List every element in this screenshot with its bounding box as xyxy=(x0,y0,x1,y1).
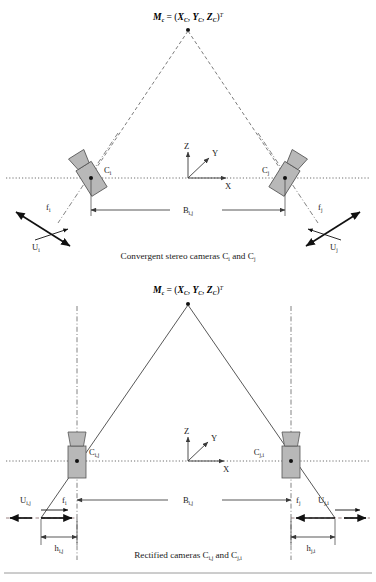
bottom-focal-left-label: fi xyxy=(62,495,67,506)
bottom-camera-right-center xyxy=(289,459,293,463)
bottom-axis-z-label: Z xyxy=(184,426,189,436)
bottom-point-label: Mc = (XC, YC, ZC)T xyxy=(152,284,224,296)
top-vector-left-thin-arrow xyxy=(35,229,68,240)
bottom-offset-left-label: hi,j xyxy=(55,543,64,554)
top-focal-right-label: fj xyxy=(318,202,323,213)
bottom-diagram-caption: Rectified cameras Ci,j and Cj,i xyxy=(134,550,242,561)
bottom-diagram-group: Mc = (XC, YC, ZC)T Ci,j Cj,i xyxy=(6,284,370,561)
bottom-camera-right-lens xyxy=(282,432,300,446)
top-axis-triad: Z Y X xyxy=(184,141,232,191)
top-axis-y-line xyxy=(188,158,209,178)
top-ray-right xyxy=(188,31,285,176)
top-camera-right xyxy=(269,149,308,196)
bottom-ray-left xyxy=(41,305,188,518)
bottom-axis-triad: Z Y X xyxy=(184,426,230,474)
bottom-vector-right-label: Uj,i xyxy=(318,495,329,506)
bottom-axis-y-line xyxy=(188,442,208,461)
top-focal-left-label: fi xyxy=(46,202,51,213)
bottom-camera-left-label: Ci,j xyxy=(89,447,100,458)
bottom-axis-y-label: Y xyxy=(211,433,217,443)
top-axis-x-label: X xyxy=(225,181,232,191)
top-diagram-caption: Convergent stereo cameras Ci and Cj xyxy=(121,251,256,262)
bottom-offset-right-label: hj,i xyxy=(307,543,316,554)
bottom-camera-left-center xyxy=(75,459,79,463)
stereo-camera-figure: Mc = (XC, YC, ZC)T Ci Cj xyxy=(0,0,376,582)
bottom-camera-right-label: Cj,i xyxy=(254,447,265,458)
top-axis-y-label: Y xyxy=(212,148,218,158)
top-camera-right-center xyxy=(283,176,287,180)
top-camera-right-label: Cj xyxy=(262,165,270,176)
bottom-axis-x-label: X xyxy=(223,464,230,474)
figure-root: Mc = (XC, YC, ZC)T Ci Cj xyxy=(0,0,376,582)
top-ray-left xyxy=(91,31,188,176)
bottom-vector-left-label: Ui,j xyxy=(20,495,31,506)
bottom-baseline-label: Bi,j xyxy=(183,495,194,506)
bottom-ray-right xyxy=(188,305,335,518)
bottom-focal-right-label: fj xyxy=(296,495,301,506)
top-camera-left-label: Ci xyxy=(104,165,112,176)
top-point-label: Mc = (XC, YC, ZC)T xyxy=(152,11,224,23)
top-vector-left-label: Ui xyxy=(32,242,40,253)
top-diagram-group: Mc = (XC, YC, ZC)T Ci Cj xyxy=(6,11,370,262)
bottom-camera-left xyxy=(68,432,86,478)
top-baseline-label: Bi,j xyxy=(183,205,194,216)
top-point-m: M xyxy=(152,11,162,22)
bottom-camera-left-lens xyxy=(68,432,86,446)
top-vector-right-thin-arrow xyxy=(308,229,341,240)
top-camera-left xyxy=(69,149,108,196)
bottom-camera-right xyxy=(282,432,300,478)
top-axis-z-label: Z xyxy=(184,141,189,151)
top-vector-right-label: Uj xyxy=(330,242,338,253)
top-camera-left-center xyxy=(89,176,93,180)
